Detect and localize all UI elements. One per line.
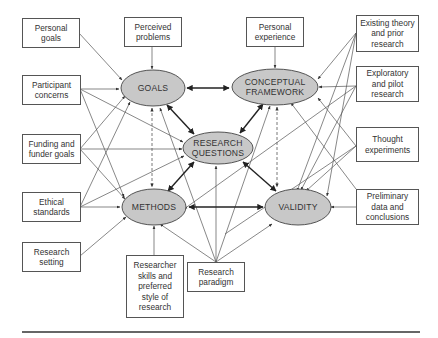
box-funding: Funding and funder goals <box>22 134 81 164</box>
box-perceived-problems: Perceived problems <box>124 17 182 47</box>
box-participant-concerns: Participant concerns <box>22 75 81 105</box>
box-existing-theory: Existing theory and prior research <box>356 15 419 52</box>
conceptual-framework-label: CONCEPTUAL FRAMEWORK <box>232 69 318 105</box>
validity-label: VALIDITY <box>265 189 331 225</box>
box-personal-goals: Personal goals <box>22 18 80 48</box>
methods-label: METHODS <box>122 189 186 225</box>
box-preliminary-data: Preliminary data and conclusions <box>356 189 419 225</box>
bottom-rule <box>22 331 420 333</box>
box-research-paradigm: Research paradigm <box>187 262 245 292</box>
box-research-setting: Research setting <box>22 242 81 272</box>
goals-label: GOALS <box>121 70 185 106</box>
research-questions-label: RESEARCH QUESTIONS <box>183 132 253 164</box>
box-ethical-standards: Ethical standards <box>22 192 81 222</box>
box-personal-experience: Personal experience <box>246 17 304 47</box>
box-researcher-skills: Researcher skills and preferred style of… <box>126 255 184 318</box>
box-thought-experiments: Thought experiments <box>356 127 419 162</box>
box-exploratory-pilot: Exploratory and pilot research <box>356 66 419 102</box>
